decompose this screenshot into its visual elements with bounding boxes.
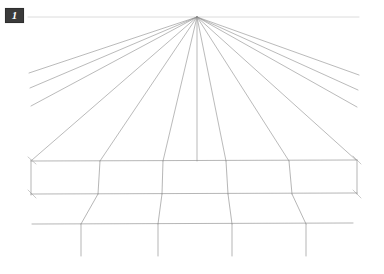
perspective-figure: 1	[0, 0, 384, 274]
figure-background	[0, 0, 384, 274]
perspective-grid-drawing	[0, 0, 384, 274]
figure-number-label: 1	[12, 10, 18, 21]
figure-number-badge: 1	[5, 8, 24, 23]
